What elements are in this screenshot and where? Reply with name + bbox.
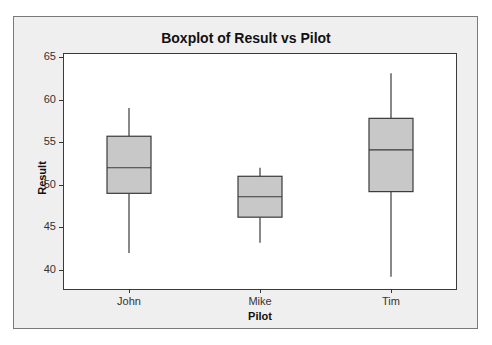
box-mike bbox=[238, 168, 282, 243]
iqr-box bbox=[107, 136, 151, 193]
box-tim bbox=[369, 73, 413, 277]
box-john bbox=[107, 108, 151, 253]
boxplot-series bbox=[0, 0, 492, 345]
iqr-box bbox=[369, 118, 413, 191]
